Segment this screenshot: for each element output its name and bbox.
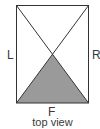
right-label: R: [92, 49, 100, 61]
view-caption: top view: [0, 117, 100, 128]
left-label: L: [7, 49, 14, 61]
top-view-diagram: L R F top view: [0, 0, 100, 129]
shaded-front-triangle: [17, 55, 89, 104]
